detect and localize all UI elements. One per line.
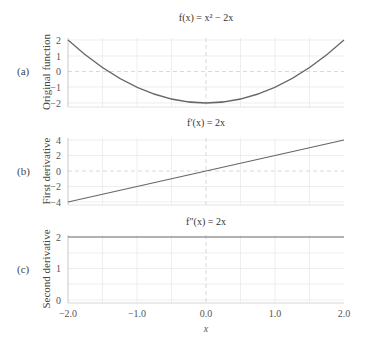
panel-c-ylabel: Second derivative (40, 229, 52, 308)
panel-a-label: (a) (17, 65, 30, 78)
x-axis-label: x (203, 323, 209, 334)
panel-a-curve (68, 40, 344, 103)
svg-text:1.0: 1.0 (269, 308, 282, 319)
panel-b-ylabel: First derivative (40, 137, 52, 204)
panel-b: f′(x) = 2x (b) First derivative 4 2 0 −2… (17, 117, 344, 208)
svg-text:2: 2 (56, 232, 61, 243)
svg-text:1: 1 (56, 263, 61, 274)
svg-text:−1.0: −1.0 (128, 308, 146, 319)
svg-text:0: 0 (56, 295, 61, 306)
panel-b-label: (b) (17, 165, 30, 178)
svg-text:1: 1 (56, 51, 61, 62)
svg-text:2.0: 2.0 (338, 308, 351, 319)
panel-c: f″(x) = 2x (c) Second derivative 2 1 0 −… (17, 216, 350, 334)
svg-text:0.0: 0.0 (200, 308, 213, 319)
svg-text:−2.0: −2.0 (59, 308, 77, 319)
panel-c-xticks: −2.0 −1.0 0.0 1.0 2.0 (59, 308, 350, 319)
svg-text:−2: −2 (50, 181, 61, 192)
panel-c-yticks: 2 1 0 (56, 232, 61, 306)
svg-text:−1: −1 (50, 82, 61, 93)
svg-text:2: 2 (56, 35, 61, 46)
svg-text:4: 4 (56, 135, 61, 146)
svg-text:0: 0 (56, 66, 61, 77)
svg-text:2: 2 (56, 150, 61, 161)
panel-a-title: f(x) = x² − 2x (179, 12, 233, 24)
svg-text:−4: −4 (50, 197, 61, 208)
svg-text:−2: −2 (50, 98, 61, 109)
panel-b-title: f′(x) = 2x (187, 117, 225, 129)
figure: f(x) = x² − 2x (a) Original function 2 1… (0, 0, 365, 348)
panel-a: f(x) = x² − 2x (a) Original function 2 1… (17, 12, 344, 110)
svg-text:0: 0 (56, 166, 61, 177)
panel-c-title: f″(x) = 2x (186, 216, 226, 228)
panel-c-label: (c) (17, 263, 30, 276)
